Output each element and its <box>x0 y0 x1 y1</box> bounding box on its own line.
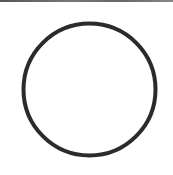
canvas <box>0 0 173 175</box>
circle-outline-icon <box>24 24 156 156</box>
